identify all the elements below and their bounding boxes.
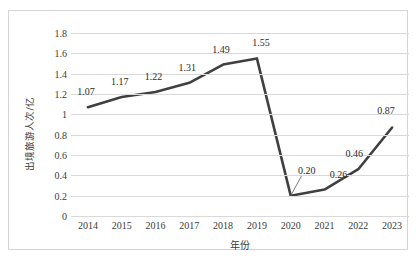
x-tick-label: 2023 — [372, 220, 412, 231]
gridline — [71, 196, 409, 197]
gridline — [71, 74, 409, 75]
line-series — [71, 33, 409, 216]
data-label: 1.55 — [252, 37, 270, 48]
data-label: 1.22 — [145, 70, 163, 81]
x-axis-tick-labels: 2014201520162017201820192020202120222023 — [71, 220, 409, 234]
x-axis-title-label: 年份 — [71, 237, 409, 252]
gridline — [71, 216, 409, 217]
gridline — [71, 135, 409, 136]
y-tick-label: 1.4 — [27, 68, 67, 79]
gridline — [71, 175, 409, 176]
gridline — [71, 33, 409, 34]
y-tick-label: 1.2 — [27, 89, 67, 100]
y-tick-label: 0.8 — [27, 129, 67, 140]
data-label: 1.31 — [179, 61, 197, 72]
data-label: 0.26 — [330, 168, 348, 179]
data-label: 1.17 — [111, 76, 129, 87]
gridline — [71, 114, 409, 115]
y-tick-label: 0.4 — [27, 170, 67, 181]
gridline — [71, 94, 409, 95]
plot-area: 1.071.171.221.311.491.550.200.260.460.87 — [71, 33, 409, 216]
y-tick-label: 1.8 — [27, 28, 67, 39]
data-label: 0.87 — [377, 104, 395, 115]
y-tick-label: 1 — [27, 109, 67, 120]
chart-screenshot: 出境旅游人次/亿 00.20.40.60.811.21.41.61.8 1.07… — [0, 0, 416, 263]
data-label: 0.46 — [346, 148, 364, 159]
y-tick-label: 0.2 — [27, 190, 67, 201]
chart-frame: 出境旅游人次/亿 00.20.40.60.811.21.41.61.8 1.07… — [8, 10, 408, 250]
data-label: 1.49 — [212, 43, 230, 54]
gridline — [71, 53, 409, 54]
data-label: 1.07 — [77, 86, 95, 97]
y-tick-label: 0.6 — [27, 150, 67, 161]
data-label: 0.20 — [298, 164, 316, 175]
y-tick-label: 0 — [27, 211, 67, 222]
y-axis-tick-labels: 00.20.40.60.811.21.41.61.8 — [25, 33, 67, 216]
y-tick-label: 1.6 — [27, 48, 67, 59]
